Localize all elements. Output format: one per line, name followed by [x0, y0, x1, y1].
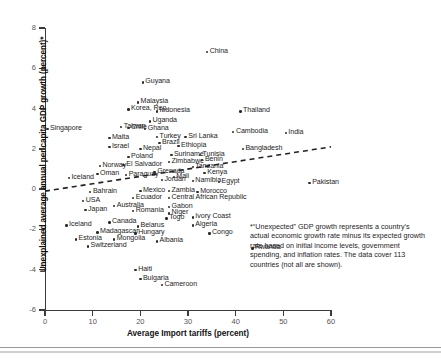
data-point-label: Egypt — [222, 178, 240, 186]
data-point — [192, 166, 194, 168]
data-point — [161, 284, 163, 286]
data-point — [232, 131, 234, 133]
data-point — [96, 231, 98, 233]
data-point — [139, 148, 141, 150]
data-point — [99, 165, 101, 167]
data-point — [139, 190, 141, 192]
data-point-label: Israel — [112, 143, 129, 151]
data-point — [120, 126, 122, 128]
data-point-label: Sri Lanka — [188, 133, 218, 141]
data-point — [142, 81, 144, 83]
data-point-label: Iceland — [71, 174, 94, 182]
data-point — [132, 197, 134, 199]
data-point — [206, 51, 208, 53]
data-point — [127, 108, 129, 110]
data-point — [96, 173, 98, 175]
data-point — [308, 182, 310, 184]
x-tick-mark — [283, 310, 284, 316]
x-tick-label: 30 — [173, 317, 203, 326]
x-tick-mark — [330, 310, 331, 316]
data-point — [113, 238, 115, 240]
y-tick-label: 8 — [0, 24, 36, 32]
data-point — [127, 127, 129, 129]
data-point — [113, 205, 115, 207]
data-point — [203, 172, 205, 174]
y-tick-label: 6 — [0, 64, 36, 72]
y-tick-label: 4 — [0, 105, 36, 113]
data-point — [65, 224, 67, 226]
data-point — [239, 110, 241, 112]
data-point — [108, 137, 110, 139]
data-point-label: Malta — [112, 134, 129, 142]
y-tick-label: -2 — [0, 225, 36, 233]
data-point-label: Ghana — [148, 125, 169, 133]
data-point-label: Canada — [112, 218, 137, 226]
data-point-label: USA — [86, 197, 100, 205]
data-point — [168, 206, 170, 208]
annotation-note: *“Unexpected” GDP growth represents a co… — [250, 222, 428, 269]
footer-rule-bottom — [0, 351, 441, 353]
data-point-label: Haiti — [138, 266, 152, 274]
y-tick-label: 2 — [0, 145, 36, 153]
data-point — [87, 245, 89, 247]
y-tick-label: -4 — [0, 266, 36, 274]
data-point-label: Paraguay — [129, 171, 159, 179]
data-point-label: Pakistan — [312, 179, 339, 187]
data-point — [165, 217, 167, 219]
data-point-label: Romania — [136, 207, 164, 215]
footer-rule-top — [0, 347, 441, 348]
x-tick-mark — [187, 310, 188, 316]
data-point-label: Guyana — [145, 78, 170, 86]
x-tick-mark — [235, 310, 236, 316]
data-point — [156, 240, 158, 242]
x-tick-mark — [92, 310, 93, 316]
x-tick-label: 60 — [316, 317, 346, 326]
data-point — [108, 146, 110, 148]
data-point-label: India — [288, 129, 303, 137]
data-point — [127, 156, 129, 158]
data-point — [89, 191, 91, 193]
data-point — [75, 238, 77, 240]
x-axis-title: Average Import tariffs (percent) — [45, 329, 331, 338]
data-point-label: Ethiopia — [181, 142, 206, 150]
data-point-label: Togo — [169, 214, 184, 222]
data-point-label: Albania — [160, 237, 183, 245]
data-point — [192, 180, 194, 182]
data-point-label: Congo — [212, 229, 233, 237]
data-point — [208, 232, 210, 234]
y-tick-label: 0 — [0, 185, 36, 193]
annotation-text: *“Unexpected” GDP growth represents a co… — [250, 222, 428, 269]
x-tick-label: 0 — [30, 317, 60, 326]
data-point-label: Indonesia — [160, 107, 190, 115]
x-tick-mark — [44, 310, 45, 316]
x-tick-label: 50 — [268, 317, 298, 326]
data-point — [161, 179, 163, 181]
data-point-label: Cambodia — [236, 128, 268, 136]
scatter-chart: 86420-2-4-6 0102030405060 Unexplained av… — [0, 0, 441, 358]
y-tick-label: -6 — [0, 306, 36, 314]
x-tick-mark — [140, 310, 141, 316]
data-point — [156, 110, 158, 112]
data-point — [139, 278, 141, 280]
data-point-label: China — [210, 48, 228, 56]
data-point — [285, 132, 287, 134]
data-point — [134, 269, 136, 271]
data-point — [132, 210, 134, 212]
data-point — [184, 136, 186, 138]
x-tick-label: 10 — [78, 317, 108, 326]
data-point — [125, 174, 127, 176]
data-point-label: Bahrain — [93, 188, 117, 196]
data-point — [170, 154, 172, 156]
data-point — [84, 209, 86, 211]
x-tick-label: 20 — [125, 317, 155, 326]
data-point-label: Singapore — [50, 125, 82, 133]
data-point — [192, 224, 194, 226]
data-point — [177, 145, 179, 147]
data-point — [82, 200, 84, 202]
data-point-label: Iceland — [69, 221, 92, 229]
data-point-label: Cameroon — [164, 281, 197, 289]
data-point-label: Central African Republic — [172, 194, 247, 202]
data-point-label: Jordan — [164, 176, 185, 184]
data-point — [168, 190, 170, 192]
data-point — [168, 161, 170, 163]
